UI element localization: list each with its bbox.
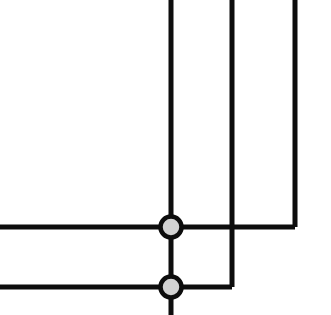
diagram-canvas	[0, 0, 331, 315]
junction-lower	[161, 277, 182, 298]
junction-upper	[161, 217, 182, 238]
line-diagram	[0, 0, 331, 315]
